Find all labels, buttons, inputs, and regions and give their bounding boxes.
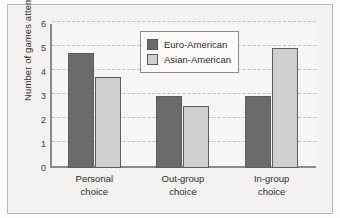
figure: Number of games attempted 0123456 Person… <box>0 0 340 218</box>
x-tick-label-line: In-group <box>227 172 316 185</box>
legend-label: Asian-American <box>164 55 231 65</box>
legend-item[interactable]: Euro-American <box>147 37 231 52</box>
x-tick-label-line: choice <box>227 185 316 198</box>
x-tick-label-line: Out-group <box>139 172 228 185</box>
y-tick-label-5: 5 <box>32 44 46 53</box>
legend-swatch-icon <box>147 39 158 50</box>
y-tick-label-4: 4 <box>32 68 46 77</box>
y-tick-label-0: 0 <box>32 164 46 173</box>
bar[interactable] <box>68 53 94 168</box>
x-tick-label-line: choice <box>139 185 228 198</box>
legend-item[interactable]: Asian-American <box>147 52 231 67</box>
bar[interactable] <box>272 48 298 168</box>
y-axis-tick-labels: 0123456 <box>30 24 46 168</box>
x-tick-label: Out-groupchoice <box>139 172 228 198</box>
x-tick-label: Personalchoice <box>50 172 139 198</box>
bar[interactable] <box>245 96 271 168</box>
bar[interactable] <box>183 106 209 168</box>
y-tick-label-1: 1 <box>32 140 46 149</box>
y-tick-label-6: 6 <box>32 20 46 29</box>
legend-label: Euro-American <box>164 40 227 50</box>
bar[interactable] <box>156 96 182 168</box>
x-tick-label: In-groupchoice <box>227 172 316 198</box>
legend-swatch-icon <box>147 54 158 65</box>
bar[interactable] <box>95 77 121 168</box>
y-tick-label-3: 3 <box>32 92 46 101</box>
y-tick-label-2: 2 <box>32 116 46 125</box>
x-tick-label-line: choice <box>50 185 139 198</box>
gridline-6 <box>52 21 316 22</box>
bar-group <box>50 24 139 168</box>
legend: Euro-AmericanAsian-American <box>140 31 239 73</box>
x-axis-tick-labels: PersonalchoiceOut-groupchoiceIn-groupcho… <box>50 172 316 212</box>
x-tick-label-line: Personal <box>50 172 139 185</box>
bar-group <box>227 24 316 168</box>
